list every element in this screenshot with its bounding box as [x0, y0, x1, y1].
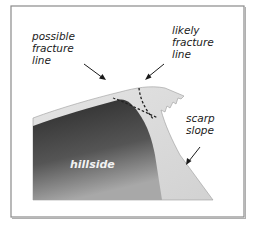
avalanche-fracture-diagram: possible fracture line likely fracture l…	[0, 0, 255, 228]
hillside-label: hillside	[70, 158, 115, 171]
scarp-slope-label: scarp slope	[186, 112, 218, 136]
